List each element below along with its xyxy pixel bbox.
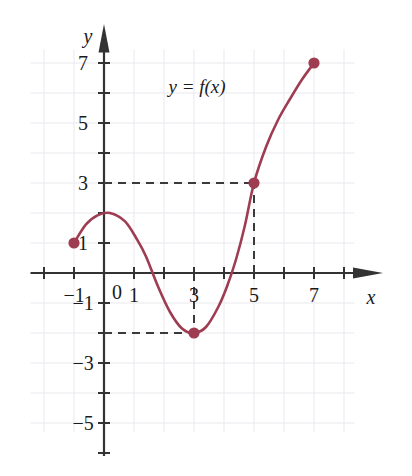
x-tick-label-1: 1	[129, 284, 139, 307]
x-tick-label-7: 7	[309, 284, 319, 307]
y-tick-label-7: 7	[78, 52, 88, 75]
x-tick-label-5: 5	[249, 284, 259, 307]
x-tick-label--1: −1	[64, 284, 85, 307]
x-axis-arrowhead	[353, 268, 383, 279]
y-axis-name: y	[84, 25, 93, 48]
y-tick-label-5: 5	[78, 112, 88, 135]
x-tick-label-3: 3	[189, 284, 199, 307]
graph-canvas	[0, 0, 412, 476]
function-label: y = f(x)	[169, 76, 226, 98]
function-graph-figure: 7531−1−3−5−113570yxy = f(x)	[0, 0, 412, 476]
x-axis-name: x	[367, 286, 376, 309]
y-tick-label-1: 1	[78, 232, 88, 255]
point-right-endpoint	[309, 58, 318, 67]
point-point-5-3	[249, 178, 258, 187]
origin-label: 0	[112, 281, 122, 304]
guide-lines	[104, 183, 254, 333]
y-tick-label-3: 3	[78, 172, 88, 195]
y-tick-label--5: −5	[73, 412, 94, 435]
y-tick-label--3: −3	[73, 352, 94, 375]
y-axis-arrowhead	[99, 24, 110, 53]
point-local-minimum	[189, 328, 198, 337]
